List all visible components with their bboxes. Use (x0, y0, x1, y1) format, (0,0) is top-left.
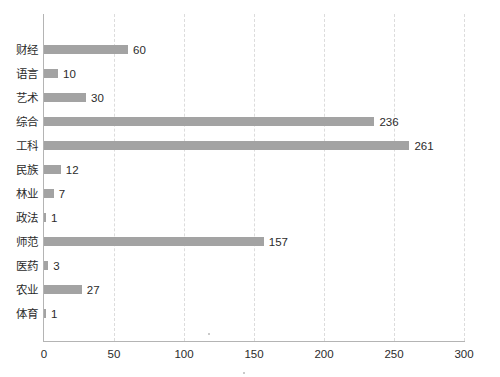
category-label: 语言 (0, 62, 38, 86)
bar-row: 财经60 (0, 38, 500, 62)
category-label: 体育 (0, 302, 38, 326)
bar[interactable] (44, 285, 82, 294)
category-label: 工科 (0, 134, 38, 158)
scan-speck (243, 372, 245, 374)
x-tick-label: 100 (174, 348, 193, 360)
bar[interactable] (44, 189, 54, 198)
bar-value-label: 3 (53, 254, 59, 278)
bar-row: 医药3 (0, 254, 500, 278)
bar-value-label: 30 (91, 86, 104, 110)
bar[interactable] (44, 93, 86, 102)
bar-row: 林业7 (0, 182, 500, 206)
bar-row: 综合236 (0, 110, 500, 134)
bar-value-label: 27 (87, 278, 100, 302)
category-label: 综合 (0, 110, 38, 134)
category-label: 财经 (0, 38, 38, 62)
bar-value-label: 1 (51, 302, 57, 326)
category-label: 师范 (0, 230, 38, 254)
bar-row: 农业27 (0, 278, 500, 302)
bar-value-label: 261 (414, 134, 433, 158)
bar[interactable] (44, 213, 46, 222)
bar-value-label: 7 (59, 182, 65, 206)
bar-row: 语言10 (0, 62, 500, 86)
bar[interactable] (44, 261, 48, 270)
bar-row: 民族12 (0, 158, 500, 182)
bar[interactable] (44, 69, 58, 78)
bar[interactable] (44, 237, 264, 246)
bar[interactable] (44, 309, 46, 318)
bar[interactable] (44, 117, 374, 126)
x-axis-line (43, 341, 465, 342)
bar-value-label: 157 (269, 230, 288, 254)
x-tick-label: 300 (454, 348, 473, 360)
category-label: 医药 (0, 254, 38, 278)
bar-value-label: 10 (63, 62, 76, 86)
x-tick-label: 0 (41, 348, 47, 360)
x-tick-label: 250 (384, 348, 403, 360)
bar-row: 政法1 (0, 206, 500, 230)
category-label: 艺术 (0, 86, 38, 110)
category-label: 农业 (0, 278, 38, 302)
bar[interactable] (44, 141, 409, 150)
scan-speck (208, 333, 210, 335)
bar-chart: 财经60语言10艺术30综合236工科261民族12林业7政法1师范157医药3… (0, 0, 500, 377)
bar-row: 工科261 (0, 134, 500, 158)
x-tick-label: 200 (314, 348, 333, 360)
bar-row: 体育1 (0, 302, 500, 326)
category-label: 政法 (0, 206, 38, 230)
bar-row: 师范157 (0, 230, 500, 254)
x-tick-label: 50 (108, 348, 121, 360)
bar[interactable] (44, 45, 128, 54)
bar-value-label: 236 (379, 110, 398, 134)
category-label: 民族 (0, 158, 38, 182)
bar-row: 艺术30 (0, 86, 500, 110)
x-tick-label: 150 (244, 348, 263, 360)
bar-value-label: 1 (51, 206, 57, 230)
bar-value-label: 12 (66, 158, 79, 182)
category-label: 林业 (0, 182, 38, 206)
bar-value-label: 60 (133, 38, 146, 62)
bar[interactable] (44, 165, 61, 174)
